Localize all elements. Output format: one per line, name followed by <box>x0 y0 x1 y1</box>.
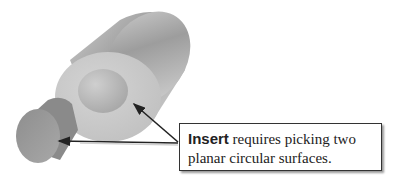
small-cylinder <box>16 98 78 163</box>
callout-line-1: Insert requires picking two <box>188 129 373 149</box>
large-cylinder <box>55 0 208 142</box>
arrow-to-small-cylinder <box>59 141 178 143</box>
callout-line-1-text: requires picking two <box>229 131 356 147</box>
callout-line-2: planar circular surfaces. <box>188 149 373 168</box>
small-cylinder-face <box>16 109 60 163</box>
insert-keyword: Insert <box>188 130 229 147</box>
callout-box: Insert requires picking two planar circu… <box>179 123 382 171</box>
inner-hole-face <box>78 69 128 113</box>
